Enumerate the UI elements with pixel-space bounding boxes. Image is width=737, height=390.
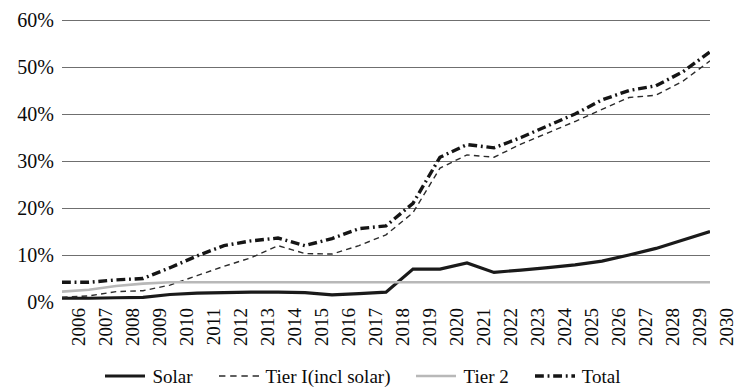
x-tick-label: 2009 — [150, 308, 169, 346]
legend-item[interactable]: Tier I(incl solar) — [219, 367, 391, 386]
legend-item[interactable]: Total — [535, 367, 621, 386]
legend-label: Solar — [152, 367, 192, 386]
series-group — [62, 52, 710, 298]
series-line-tier-i-incl-solar — [62, 61, 710, 297]
x-tick-label: 2026 — [609, 308, 628, 346]
x-tick-label: 2013 — [258, 308, 277, 346]
legend-label: Tier I(incl solar) — [266, 367, 391, 386]
y-tick-label: 30% — [17, 151, 54, 171]
y-tick-label: 10% — [17, 245, 54, 265]
x-axis: 2006200720082009201020112012201320142015… — [62, 306, 710, 362]
x-tick-label: 2016 — [339, 308, 358, 346]
legend-swatch-dashdot-icon — [535, 370, 575, 382]
x-tick-label: 2015 — [312, 308, 331, 346]
legend-swatch-dashed-icon — [219, 370, 259, 382]
x-tick-label: 2019 — [420, 308, 439, 346]
x-tick-label: 2027 — [636, 308, 655, 346]
legend-label: Tier 2 — [463, 367, 508, 386]
legend-swatch-solid-icon — [105, 370, 145, 382]
x-tick-label: 2029 — [690, 308, 709, 346]
y-tick-label: 50% — [17, 57, 54, 77]
x-tick-label: 2011 — [204, 308, 223, 345]
x-tick-label: 2021 — [474, 308, 493, 346]
x-tick-label: 2006 — [69, 308, 88, 346]
x-tick-label: 2017 — [366, 308, 385, 346]
legend-swatch-solid-icon — [416, 370, 456, 382]
y-tick-label: 20% — [17, 198, 54, 218]
chart-legend: SolarTier I(incl solar)Tier 2Total — [0, 362, 726, 390]
x-tick-label: 2028 — [663, 308, 682, 346]
y-tick-label: 0% — [27, 292, 54, 312]
x-tick-label: 2007 — [96, 308, 115, 346]
x-tick-label: 2020 — [447, 308, 466, 346]
x-tick-label: 2018 — [393, 308, 412, 346]
legend-label: Total — [582, 367, 621, 386]
x-tick-label: 2025 — [582, 308, 601, 346]
x-tick-label: 2022 — [501, 308, 520, 346]
x-tick-label: 2030 — [717, 308, 736, 346]
legend-item[interactable]: Tier 2 — [416, 367, 508, 386]
plot-svg — [62, 20, 710, 302]
series-line-solar — [62, 232, 710, 299]
legend-item[interactable]: Solar — [105, 367, 192, 386]
x-tick-label: 2023 — [528, 308, 547, 346]
plot-area — [62, 20, 710, 302]
x-tick-label: 2008 — [123, 308, 142, 346]
x-tick-label: 2012 — [231, 308, 250, 346]
x-tick-label: 2014 — [285, 308, 304, 346]
x-tick-label: 2010 — [177, 308, 196, 346]
series-line-total — [62, 52, 710, 282]
y-tick-label: 40% — [17, 104, 54, 124]
y-tick-label: 60% — [17, 10, 54, 30]
y-axis: 60%50%40%30%20%10%0% — [0, 0, 62, 312]
x-tick-label: 2024 — [555, 308, 574, 346]
